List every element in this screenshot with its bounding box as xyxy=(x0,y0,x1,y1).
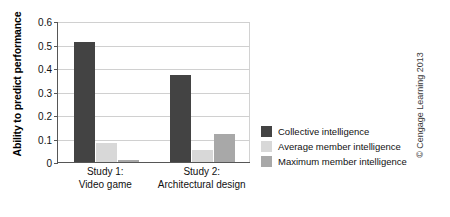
gridline xyxy=(58,22,250,23)
chart-legend: Collective intelligenceAverage member in… xyxy=(261,125,407,168)
legend-label: Maximum member intelligence xyxy=(278,156,407,167)
y-axis-tick-mark xyxy=(54,163,58,164)
legend-item: Maximum member intelligence xyxy=(261,155,407,168)
copyright-credit: © Cengage Learning 2013 xyxy=(415,38,425,173)
y-axis-tick-label: 0.3 xyxy=(38,87,52,98)
legend-label: Collective intelligence xyxy=(278,126,369,137)
bar xyxy=(74,42,95,162)
bar xyxy=(214,134,235,162)
legend-item: Collective intelligence xyxy=(261,125,407,138)
legend-item: Average member intelligence xyxy=(261,140,407,153)
y-axis-tick-mark xyxy=(54,140,58,141)
y-axis-tick-mark xyxy=(54,116,58,117)
category-label-line: Study 2: xyxy=(132,166,272,179)
y-axis-tick-mark xyxy=(54,69,58,70)
bar xyxy=(170,75,191,162)
plot-area: 0.60.50.40.30.20.10 xyxy=(57,22,250,163)
y-axis-tick-label: 0.4 xyxy=(38,64,52,75)
category-label-line: Architectural design xyxy=(132,179,272,192)
bar xyxy=(96,143,117,162)
y-axis-tick-mark xyxy=(54,22,58,23)
y-axis-tick-label: 0.2 xyxy=(38,111,52,122)
legend-color-swatch xyxy=(261,141,272,152)
legend-label: Average member intelligence xyxy=(278,141,401,152)
legend-color-swatch xyxy=(261,126,272,137)
y-axis-tick-label: 0.5 xyxy=(38,40,52,51)
x-axis-category-label: Study 2:Architectural design xyxy=(132,166,272,191)
y-axis-tick-mark xyxy=(54,46,58,47)
bar xyxy=(118,160,139,162)
chart-figure: Ability to predict performance 0.60.50.4… xyxy=(0,0,450,217)
y-axis-tick-mark xyxy=(54,93,58,94)
y-axis-title: Ability to predict performance xyxy=(11,0,23,169)
bar xyxy=(192,150,213,162)
y-axis-tick-label: 0.6 xyxy=(38,17,52,28)
legend-color-swatch xyxy=(261,156,272,167)
y-axis-tick-label: 0.1 xyxy=(38,134,52,145)
